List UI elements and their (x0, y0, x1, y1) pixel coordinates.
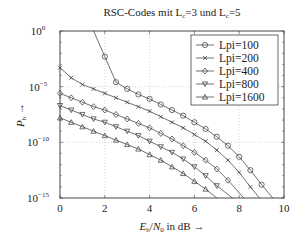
y-tick-label: 10−5 (29, 80, 48, 93)
y-tick-label: 100 (31, 24, 46, 37)
legend-label: Lpi=200 (219, 52, 259, 65)
x-tick-label: 6 (192, 202, 198, 214)
x-tick-label: 4 (147, 202, 153, 214)
y-axis-label: Pb → (14, 103, 28, 128)
legend-label: Lpi=400 (219, 65, 259, 78)
y-tick-label: 10−15 (27, 191, 49, 204)
chart-title: RSC-Codes mit Lc=3 und Lc=5 (103, 6, 241, 20)
y-tick-label: 10−10 (27, 135, 49, 148)
y-tick-labels: 10010−510−1010−15 (27, 24, 49, 204)
x-tick-label: 2 (102, 202, 108, 214)
x-tick-label: 8 (236, 202, 242, 214)
series-lpi-800 (57, 104, 232, 198)
x-tick-label: 0 (57, 202, 63, 214)
series-lpi-1600 (57, 115, 216, 198)
legend: Lpi=100Lpi=200Lpi=400Lpi=800Lpi=1600 (191, 35, 278, 105)
x-tick-label: 10 (279, 202, 291, 214)
legend-label: Lpi=800 (219, 78, 259, 91)
series-lpi-400 (57, 90, 243, 198)
x-axis-label: Eb/N0 in dB → (139, 220, 205, 234)
ber-chart: RSC-Codes mit Lc=3 und Lc=5 10010−510−10… (0, 0, 306, 238)
legend-label: Lpi=1600 (219, 91, 265, 104)
legend-label: Lpi=100 (219, 39, 259, 52)
x-tick-labels: 0246810 (57, 202, 290, 214)
